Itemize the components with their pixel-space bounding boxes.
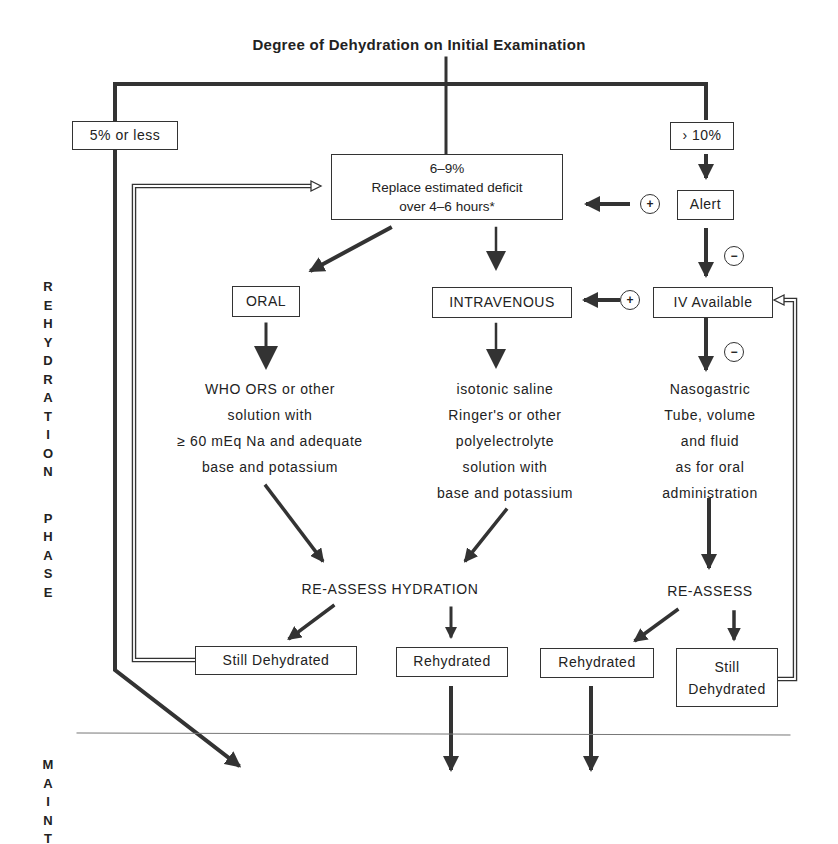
phase-letter: M [40, 756, 56, 775]
iv-solution-line: Ringer's or other [400, 402, 610, 428]
left-rehydrated-label: Rehydrated [413, 653, 490, 671]
right-rehydrated-box: Rehydrated [540, 648, 654, 678]
ng-solution-line: Nasogastric [640, 376, 780, 402]
iv-available-box: IV Available [653, 287, 773, 318]
right-rehydrated-label: Rehydrated [558, 654, 635, 672]
reassess-label: RE-ASSESS [650, 578, 770, 604]
iv-solution-line: solution with [400, 454, 610, 480]
iv-solution-line: base and potassium [400, 480, 610, 506]
alert-no-sign: − [724, 246, 744, 266]
phase-letter: P [40, 510, 56, 529]
maintenance-phase-label: M A I N T [40, 756, 56, 844]
iv-yes-sign: + [620, 290, 640, 310]
phase-letter: N [40, 463, 56, 482]
left-still-dehydrated-box: Still Dehydrated [195, 646, 357, 675]
alert-yes-sign: + [640, 194, 660, 214]
phase-letter: N [40, 812, 56, 831]
left-still-dehydrated-label: Still Dehydrated [223, 652, 330, 670]
oral-solution-line: base and potassium [140, 454, 400, 480]
phase-letter: I [40, 426, 56, 445]
phase-letter: R [40, 371, 56, 390]
plus-icon: + [646, 198, 653, 210]
right-still-line: Still [714, 656, 739, 678]
phase-letter: A [40, 775, 56, 794]
iv-solution-text: isotonic saline Ringer's or other polyel… [400, 376, 610, 506]
phase-letter: H [40, 528, 56, 547]
alert-label: Alert [690, 196, 721, 214]
ng-solution-line: as for oral [640, 454, 780, 480]
plus-icon: + [626, 294, 633, 306]
phase-letter: A [40, 547, 56, 566]
severity-severe-label: › 10% [682, 127, 721, 145]
severity-mild-box: 5% or less [72, 121, 178, 150]
severity-mild-label: 5% or less [90, 127, 160, 145]
phase-letter: Y [40, 334, 56, 353]
ng-solution-line: and fluid [640, 428, 780, 454]
reassess-hydration-label: RE-ASSESS HYDRATION [270, 576, 510, 602]
phase-letter: T [40, 830, 56, 844]
oral-route-label: ORAL [246, 293, 286, 311]
oral-solution-text: WHO ORS or other solution with ≥ 60 mEq … [140, 376, 400, 480]
severity-severe-box: › 10% [670, 122, 734, 150]
iv-solution-line: polyelectrolyte [400, 428, 610, 454]
phase-letter: A [40, 389, 56, 408]
ng-solution-text: Nasogastric Tube, volume and fluid as fo… [640, 376, 780, 506]
diagram-title: Degree of Dehydration on Initial Examina… [0, 36, 838, 53]
moderate-range: 6–9% [430, 159, 465, 178]
ng-solution-line: Tube, volume [640, 402, 780, 428]
moderate-instruction-1: Replace estimated deficit [372, 178, 523, 197]
right-still-line: Dehydrated [688, 678, 765, 700]
phase-letter: E [40, 297, 56, 316]
ng-solution-line: administration [640, 480, 780, 506]
minus-icon: − [730, 346, 737, 358]
phase-letter: E [40, 584, 56, 603]
minus-icon: − [730, 250, 737, 262]
phase-letter: S [40, 565, 56, 584]
oral-route-box: ORAL [232, 286, 300, 317]
phase-letter: H [40, 315, 56, 334]
iv-solution-line: isotonic saline [400, 376, 610, 402]
phase-letter: R [40, 278, 56, 297]
left-rehydrated-box: Rehydrated [396, 647, 508, 677]
phase-letter: O [40, 445, 56, 464]
phase-letter: I [40, 793, 56, 812]
oral-solution-line: WHO ORS or other [140, 376, 400, 402]
moderate-instruction-2: over 4–6 hours* [399, 197, 494, 216]
right-still-dehydrated-box: Still Dehydrated [676, 648, 778, 707]
alert-box: Alert [677, 190, 734, 220]
oral-solution-line: ≥ 60 mEq Na and adequate [140, 428, 400, 454]
phase-letter: T [40, 408, 56, 427]
rehydration-phase-label: R E H Y D R A T I O N P H A S E [40, 278, 56, 602]
phase-letter: D [40, 352, 56, 371]
severity-moderate-box: 6–9% Replace estimated deficit over 4–6 … [331, 154, 563, 220]
iv-available-label: IV Available [674, 294, 753, 312]
intravenous-route-label: INTRAVENOUS [449, 294, 555, 312]
intravenous-route-box: INTRAVENOUS [432, 287, 572, 318]
iv-no-sign: − [724, 342, 744, 362]
oral-solution-line: solution with [140, 402, 400, 428]
